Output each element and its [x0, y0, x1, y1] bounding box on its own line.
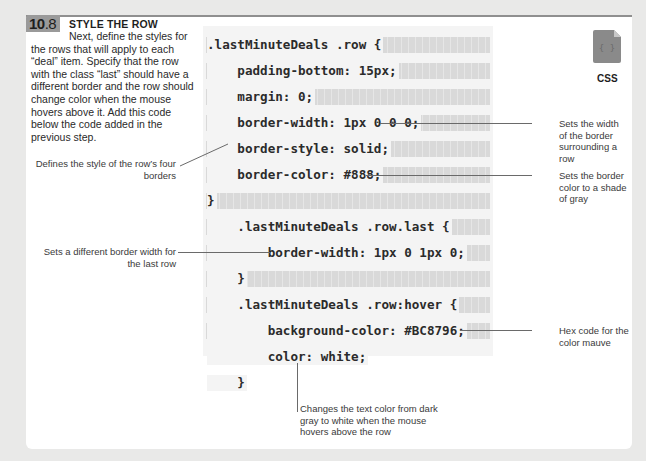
annotation-last-row: Sets a different border width for the la… — [30, 246, 176, 269]
code-line: color: white; — [207, 349, 368, 365]
leader-line — [297, 363, 298, 412]
annotation-border-color: Sets the border color to a shade of gray — [559, 170, 629, 205]
annotation-border-style: Defines the style of the row’s four bord… — [30, 158, 176, 181]
code-line: background-color: #BC8796; — [207, 323, 467, 339]
code-line: border-color: #888; — [207, 167, 383, 183]
code-line: border-width: 1px 0 1px 0; — [207, 245, 467, 261]
leader-line — [460, 330, 532, 331]
code-line-bg — [206, 193, 490, 209]
code-line: .lastMinuteDeals .row.last { — [207, 219, 452, 235]
leader-line — [178, 142, 230, 168]
code-line: } — [207, 271, 247, 287]
annotation-text-color: Changes the text color from dark gray to… — [300, 403, 450, 438]
leader-line — [366, 175, 532, 176]
css-file-icon: { } — [593, 30, 621, 63]
code-line: } — [207, 375, 247, 391]
code-line: .lastMinuteDeals .row:hover { — [207, 297, 459, 313]
code-line: .lastMinuteDeals .row { — [207, 37, 383, 53]
annotation-hex-mauve: Hex code for the color mauve — [559, 325, 629, 348]
code-line: margin: 0; — [207, 89, 315, 105]
annotation-border-width: Sets the width of the border surrounding… — [559, 118, 629, 164]
svg-text:{ }: { } — [599, 43, 615, 53]
code-line: padding-bottom: 15px; — [207, 63, 399, 79]
step-title: STYLE THE ROW — [69, 18, 158, 30]
code-line: } — [207, 193, 217, 209]
leader-line — [178, 252, 270, 253]
css-file-label: CSS — [597, 73, 618, 84]
step-description: Next, define the styles for the rows tha… — [31, 30, 199, 143]
code-line-bg — [206, 271, 490, 287]
leader-line — [380, 123, 532, 124]
code-line: border-style: solid; — [207, 141, 391, 157]
